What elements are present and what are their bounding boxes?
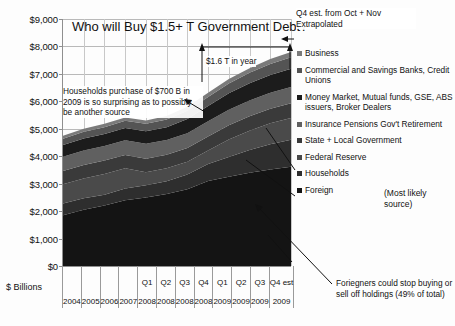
legend-item: State + Local Government xyxy=(297,135,455,146)
annotation-foreign-note: Foriegners could stop buying or sell off… xyxy=(336,278,454,300)
y-axis-tick-label: $4,000 xyxy=(30,151,58,162)
x-axis-category: Q42008 xyxy=(195,266,214,308)
x-axis-category: Q32009 xyxy=(251,266,270,308)
y-axis-tick-label: $0 xyxy=(48,261,58,272)
x-axis-quarter-label: . xyxy=(90,277,92,288)
x-axis-quarter-label: . xyxy=(108,277,110,288)
legend-item: Households xyxy=(297,168,455,179)
legend-label: Money Market, Mutual funds, GSE, ABS iss… xyxy=(305,92,455,113)
x-axis-quarter-label: Q2 xyxy=(236,277,247,288)
x-axis-category: Q4 est2009 xyxy=(270,266,295,308)
x-axis-year-label: 2006 xyxy=(101,297,119,307)
y-axis-tick-label: $5,000 xyxy=(30,123,58,134)
x-axis-year-label: 2004 xyxy=(63,297,81,307)
x-axis-year-label: 2008 xyxy=(157,297,175,307)
x-axis-quarter-label: Q4 xyxy=(198,277,209,288)
annotation-households-note: Households purchase of $700 B in 2009 is… xyxy=(63,86,203,118)
legend-label: Commercial and Savings Banks, Credit Uni… xyxy=(305,65,455,86)
x-axis-year-label: 2008 xyxy=(195,297,213,307)
legend-swatch-icon xyxy=(297,51,302,56)
x-axis-quarter-label: Q1 xyxy=(217,277,228,288)
legend-swatch-icon xyxy=(297,188,302,193)
x-axis-year-label: 2007 xyxy=(119,297,137,307)
y-axis-tick-label: $9,000 xyxy=(30,14,58,25)
legend-item: Federal Reserve xyxy=(297,152,455,163)
legend-item: Business xyxy=(297,48,455,59)
x-axis-category: Q22008 xyxy=(157,266,176,308)
x-axis-category: Q12008 xyxy=(138,266,157,308)
annotation-q4-estimate: Q4 est. from Oct + Nov Extrapolated xyxy=(296,8,416,29)
x-axis-category: .2006 xyxy=(101,266,120,308)
x-axis-year-label: 2008 xyxy=(176,297,194,307)
x-axis-category: Q32008 xyxy=(176,266,195,308)
x-axis-quarter-label: Q3 xyxy=(179,277,190,288)
x-axis: .2004.2005.2006.2007Q12008Q22008Q32008Q4… xyxy=(62,266,291,308)
x-axis-category: .2005 xyxy=(82,266,101,308)
x-axis-quarter-label: Q1 xyxy=(142,277,153,288)
x-axis-year-label: 2009 xyxy=(251,297,269,307)
legend-swatch-icon xyxy=(297,68,302,73)
x-axis-quarter-label: . xyxy=(127,277,129,288)
y-axis-tick-label: $7,000 xyxy=(30,68,58,79)
stacked-area-series xyxy=(63,19,292,267)
x-axis-category: Q22009 xyxy=(232,266,251,308)
plot-area: $9,000$8,000$7,000$6,000$5,000$4,000$3,0… xyxy=(62,19,291,267)
x-axis-quarter-label: Q4 est xyxy=(270,277,294,288)
chart-legend: BusinessCommercial and Savings Banks, Cr… xyxy=(297,48,455,201)
legend-swatch-icon xyxy=(297,171,302,176)
chart-screenshot: $9,000$8,000$7,000$6,000$5,000$4,000$3,0… xyxy=(0,0,455,326)
legend-label: Federal Reserve xyxy=(305,152,366,163)
legend-label: Insurance Pensions Gov't Retirement xyxy=(305,119,442,130)
legend-swatch-icon xyxy=(297,95,302,100)
legend-item: Commercial and Savings Banks, Credit Uni… xyxy=(297,65,455,86)
y-axis-tick-label: $2,000 xyxy=(30,206,58,217)
x-axis-year-label: 2009 xyxy=(213,297,231,307)
x-axis-category: .2007 xyxy=(119,266,138,308)
x-axis-quarter-label: Q3 xyxy=(255,277,266,288)
x-axis-category: .2004 xyxy=(62,266,82,308)
legend-item: Insurance Pensions Gov't Retirement xyxy=(297,119,455,130)
legend-label: Foreign xyxy=(305,185,333,196)
y-axis-tick-label: $1,000 xyxy=(30,233,58,244)
y-axis-tick-label: $3,000 xyxy=(30,178,58,189)
x-axis-category: Q12009 xyxy=(213,266,232,308)
x-axis-quarter-label: Q2 xyxy=(161,277,172,288)
y-axis-tick-label: $6,000 xyxy=(30,96,58,107)
y-axis-tick-label: $8,000 xyxy=(30,41,58,52)
x-axis-quarter-label: . xyxy=(71,277,73,288)
x-axis-year-label: 2005 xyxy=(82,297,100,307)
annotation-most-likely-source: (Most likely source) xyxy=(384,188,452,210)
legend-label: Households xyxy=(305,168,349,179)
annotation-one-six-trillion: $1.6 T in year xyxy=(206,56,256,67)
y-axis-units-label: $ Billions xyxy=(6,282,42,292)
x-axis-year-label: 2008 xyxy=(138,297,156,307)
x-axis-year-label: 2009 xyxy=(273,297,291,307)
legend-label: State + Local Government xyxy=(305,135,402,146)
legend-label: Business xyxy=(305,48,339,59)
x-axis-year-label: 2009 xyxy=(232,297,250,307)
chart-title: Who will Buy $1.5+ T Government Debt? xyxy=(72,19,307,34)
legend-swatch-icon xyxy=(297,122,302,127)
legend-item: Money Market, Mutual funds, GSE, ABS iss… xyxy=(297,92,455,113)
legend-swatch-icon xyxy=(297,138,302,143)
legend-swatch-icon xyxy=(297,155,302,160)
